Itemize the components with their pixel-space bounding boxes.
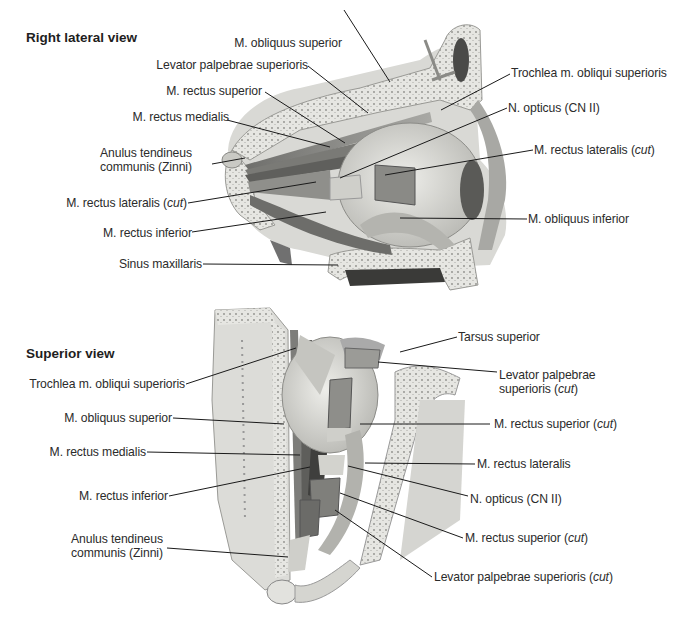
label-rectus-inferior-sup: M. rectus inferior [79, 489, 168, 503]
label-rectus-superior-cut-2: M. rectus superior (cut) [465, 531, 588, 545]
label-rectus-lateralis-sup: M. rectus lateralis [477, 457, 571, 471]
label-anulus-tendineus-sup: Anulus tendineus communis (Zinni) [71, 532, 163, 560]
label-rectus-inferior: M. rectus inferior [103, 226, 192, 240]
lateral-view-title: Right lateral view [26, 30, 137, 45]
label-sinus-maxillaris: Sinus maxillaris [119, 257, 202, 271]
label-obliquus-inferior: M. obliquus inferior [528, 212, 629, 226]
label-n-opticus: N. opticus (CN II) [508, 101, 600, 115]
label-obliquus-superior: M. obliquus superior [234, 36, 342, 50]
label-levator-palpebrae: Levator palpebrae superioris [156, 58, 308, 72]
label-rectus-superior: M. rectus superior [166, 84, 262, 98]
label-n-opticus-sup: N. opticus (CN II) [470, 492, 562, 506]
superior-view-illustration [212, 308, 465, 604]
label-levator-palpebrae-cut: Levator palpebrae superioris (cut) [499, 368, 596, 396]
superior-view-title: Superior view [26, 346, 115, 361]
label-rectus-medialis: M. rectus medialis [133, 110, 229, 124]
label-levator-palpebrae-cut-2: Levator palpebrae superioris (cut) [434, 570, 613, 584]
label-obliquus-superior-sup: M. obliquus superior [64, 411, 172, 425]
label-trochlea-sup: Trochlea m. obliqui superioris [29, 377, 185, 391]
label-rectus-lateralis-cut: M. rectus lateralis (cut) [66, 196, 187, 210]
label-trochlea: Trochlea m. obliqui superioris [511, 66, 667, 80]
anatomy-figure: Right lateral view Superior view M. obli… [0, 0, 692, 635]
label-rectus-lateralis-cut-right: M. rectus lateralis (cut) [534, 143, 655, 157]
label-anulus-tendineus: Anulus tendineus communis (Zinni) [100, 146, 192, 174]
label-tarsus-superior: Tarsus superior [458, 330, 540, 344]
label-rectus-superior-cut: M. rectus superior (cut) [494, 417, 617, 431]
label-rectus-medialis-sup: M. rectus medialis [50, 445, 146, 459]
